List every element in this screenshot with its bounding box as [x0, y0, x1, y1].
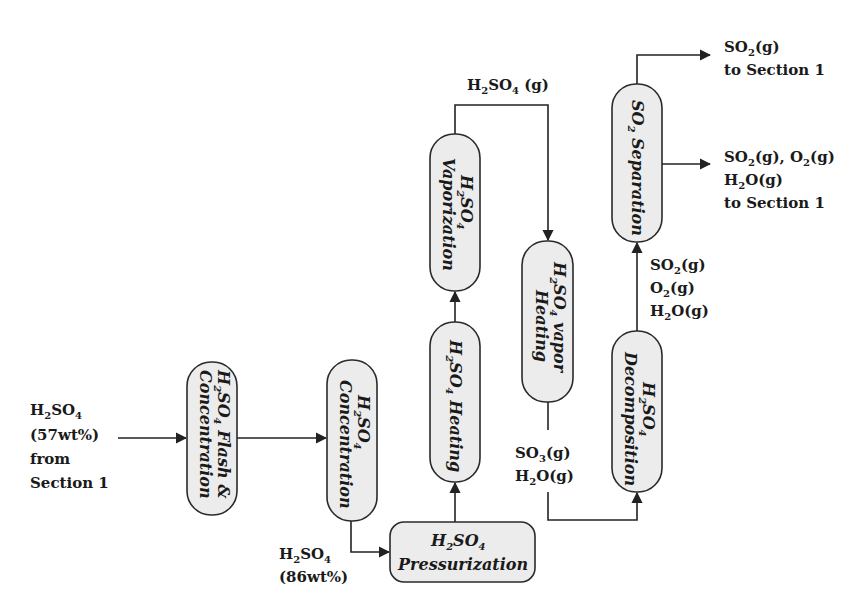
stream-decomp-products-label: SO2(g) O2(g) H2O(g) [650, 256, 709, 322]
svg-text:SO2(g): SO2(g) [724, 38, 780, 58]
svg-text:H2SO4 (g): H2SO4 (g) [467, 76, 549, 96]
concentration-to-pressurization-arrow [351, 521, 389, 552]
unit-vapor-heating: H2SO4 vapor Heating [522, 241, 573, 402]
svg-text:Concentration: Concentration [336, 380, 355, 509]
svg-text:Section 1: Section 1 [30, 474, 109, 492]
so3-to-decomposition-arrow [548, 492, 637, 520]
unit-so2-separation: SO2 Separation [612, 84, 662, 242]
svg-text:Decomposition: Decomposition [621, 351, 640, 486]
stream-so2-out-label: SO2(g) to Section 1 [724, 38, 825, 79]
svg-text:to Section 1: to Section 1 [724, 61, 825, 79]
svg-text:(57wt%): (57wt%) [30, 426, 99, 444]
unit-flash-concentration: H2SO4 Flash & Concentration [187, 362, 237, 515]
svg-text:Pressurization: Pressurization [397, 555, 528, 574]
svg-text:O2(g): O2(g) [650, 279, 695, 299]
stream-feed-label: H2SO4 (57wt%) from Section 1 [30, 401, 109, 492]
unit-heating: H2SO4 Heating [430, 322, 480, 482]
svg-text:SO2(g): SO2(g) [650, 256, 706, 276]
svg-text:(86wt%): (86wt%) [279, 568, 348, 586]
svg-text:SO2(g), O2(g): SO2(g), O2(g) [724, 148, 835, 168]
svg-text:SO2 Separation: SO2 Separation [626, 100, 647, 236]
svg-text:H2O(g): H2O(g) [650, 302, 709, 322]
unit-pressurization: H2SO4 Pressurization [390, 522, 535, 582]
unit-decomposition: H2SO4 Decomposition [612, 331, 662, 492]
svg-text:H2SO4: H2SO4 [430, 531, 486, 552]
svg-text:SO3(g): SO3(g) [515, 444, 571, 464]
svg-text:from: from [30, 450, 70, 468]
unit-concentration: H2SO4 Concentration [327, 360, 377, 521]
stream-vapor-label: H2SO4 (g) [467, 76, 549, 96]
svg-text:Heating: Heating [532, 289, 551, 362]
svg-text:H2SO4: H2SO4 [30, 401, 82, 421]
process-flow-diagram: H2SO4 Flash & Concentration H2SO4 Concen… [0, 0, 862, 616]
svg-text:H2O(g): H2O(g) [724, 171, 783, 191]
stream-mixed-out-label: SO2(g), O2(g) H2O(g) to Section 1 [724, 148, 835, 212]
so2-out-arrow [637, 55, 710, 84]
svg-text:to Section 1: to Section 1 [724, 194, 825, 212]
stream-so3-h2o-label: SO3(g) H2O(g) [515, 444, 574, 487]
svg-text:Concentration: Concentration [196, 370, 215, 499]
stream-concentrated-label: H2SO4 (86wt%) [279, 545, 348, 586]
svg-text:H2SO4: H2SO4 [279, 545, 331, 565]
unit-vaporization: H2SO4 Vaporization [430, 134, 480, 291]
svg-text:Vaporization: Vaporization [439, 158, 458, 271]
svg-text:H2O(g): H2O(g) [515, 467, 574, 487]
